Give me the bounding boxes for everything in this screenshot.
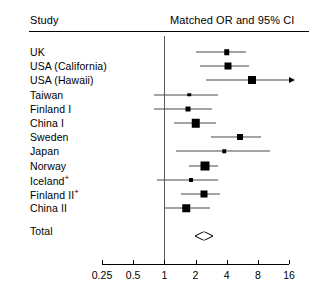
- study-label: Taiwan: [30, 89, 63, 101]
- confidence-interval-line: [211, 137, 261, 138]
- x-axis-tick: [196, 260, 197, 264]
- x-axis-line: [102, 264, 289, 265]
- confidence-interval-line: [154, 108, 212, 109]
- point-estimate-marker: [237, 134, 243, 140]
- point-estimate-marker: [182, 204, 190, 212]
- point-estimate-marker: [200, 191, 207, 198]
- x-axis-tick: [102, 260, 103, 264]
- x-axis-tick-label: 0.5: [126, 269, 141, 281]
- ci-truncation-arrow-icon: [289, 77, 295, 83]
- point-estimate-marker: [186, 106, 191, 111]
- point-estimate-marker: [191, 119, 200, 128]
- confidence-interval-line: [196, 52, 246, 53]
- x-axis-tick-label: 1: [161, 269, 167, 281]
- x-axis-tick-label: 0.25: [92, 269, 112, 281]
- x-axis-tick-label: 8: [255, 269, 261, 281]
- forest-plot: Study Matched OR and 95% CI UKUSA (Calif…: [0, 0, 321, 301]
- study-label: China I: [30, 117, 64, 129]
- null-effect-line: [164, 36, 165, 264]
- point-estimate-marker: [189, 178, 193, 182]
- header-rule: [29, 31, 309, 32]
- x-axis-tick-label: 16: [283, 269, 295, 281]
- study-label: Finland I: [30, 103, 71, 115]
- point-estimate-marker: [248, 76, 256, 84]
- x-axis-tick-label: 2: [193, 269, 199, 281]
- study-label: Norway: [30, 160, 66, 172]
- study-label-footnote-marker: +: [65, 173, 70, 182]
- column-header-or: Matched OR and 95% CI: [170, 14, 294, 26]
- x-axis-tick: [133, 260, 134, 264]
- point-estimate-marker: [223, 150, 227, 154]
- point-estimate-marker: [224, 49, 230, 55]
- study-label: USA (Hawaii): [30, 74, 94, 86]
- study-label-footnote-marker: +: [74, 187, 79, 196]
- study-label: Sweden: [30, 131, 69, 143]
- study-label: UK: [30, 46, 45, 58]
- study-label: China II: [30, 202, 67, 214]
- point-estimate-marker: [224, 63, 231, 70]
- summary-diamond: [195, 227, 213, 236]
- study-label: USA (California): [30, 60, 107, 72]
- column-header-study: Study: [30, 14, 59, 26]
- x-axis-tick: [289, 260, 290, 264]
- study-label: Iceland+: [30, 173, 69, 187]
- x-axis-tick: [227, 260, 228, 264]
- study-label: Japan: [30, 145, 59, 157]
- study-label: Finland II+: [30, 187, 79, 201]
- point-estimate-marker: [188, 93, 192, 97]
- x-axis-tick-label: 4: [224, 269, 230, 281]
- point-estimate-marker: [200, 161, 209, 170]
- study-label: Total: [30, 225, 53, 237]
- x-axis-tick: [258, 260, 259, 264]
- confidence-interval-line: [154, 94, 218, 95]
- confidence-interval-line: [157, 179, 218, 180]
- x-axis-tick: [164, 260, 165, 264]
